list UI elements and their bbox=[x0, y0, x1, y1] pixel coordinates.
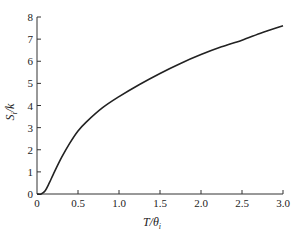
data-line bbox=[37, 26, 283, 194]
x-tick-label: 3.0 bbox=[276, 197, 290, 209]
x-tick-label: 0.5 bbox=[71, 197, 85, 209]
y-tick-label: 7 bbox=[28, 33, 34, 45]
y-tick-label: 5 bbox=[28, 77, 34, 89]
y-tick-label: 3 bbox=[28, 122, 34, 134]
x-tick-label: 2.0 bbox=[194, 197, 208, 209]
y-axis-label: Si/k bbox=[3, 103, 19, 121]
x-tick-label: 2.5 bbox=[235, 197, 249, 209]
y-tick-label: 8 bbox=[28, 11, 34, 23]
x-tick-label: 1.5 bbox=[153, 197, 167, 209]
y-tick-label: 0 bbox=[28, 188, 34, 200]
y-tick-label: 6 bbox=[28, 55, 34, 67]
y-tick-label: 1 bbox=[28, 166, 34, 178]
tick-labels: 00.51.01.52.02.53.0012345678 bbox=[28, 11, 291, 209]
x-tick-label: 1.0 bbox=[112, 197, 126, 209]
entropy-chart: 00.51.01.52.02.53.0012345678 T/θi Si/k bbox=[0, 0, 303, 236]
x-tick-label: 0 bbox=[34, 197, 40, 209]
y-tick-label: 2 bbox=[28, 144, 34, 156]
axes bbox=[37, 17, 283, 194]
x-axis-label: T/θi bbox=[143, 215, 161, 231]
y-tick-label: 4 bbox=[28, 100, 34, 112]
